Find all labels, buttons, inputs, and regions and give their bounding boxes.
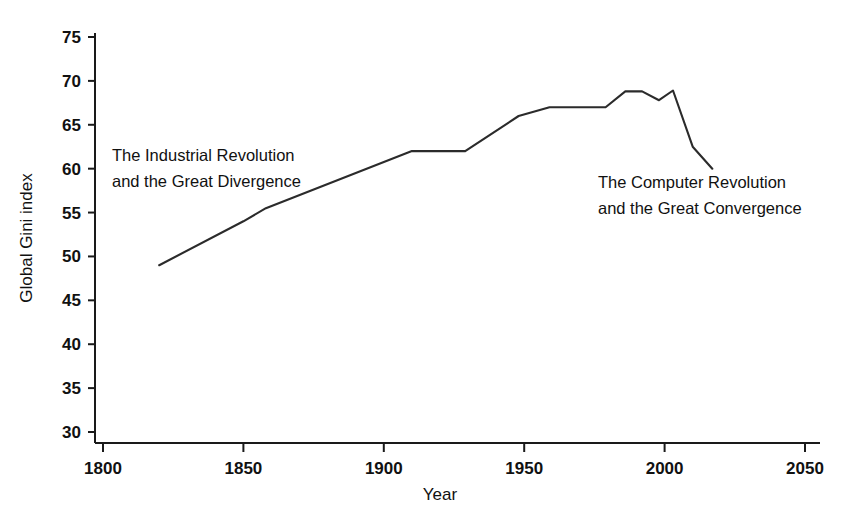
annotation-computer-line-2: and the Great Convergence — [598, 196, 802, 222]
x-tick-label-2050: 2050 — [786, 459, 824, 478]
y-axis-title: Global Gini index — [17, 173, 36, 303]
annotation-industrial-line-1: The Industrial Revolution — [112, 143, 301, 169]
annotation-computer-line-1: The Computer Revolution — [598, 170, 802, 196]
y-tick-label-40: 40 — [62, 335, 81, 354]
annotation-industrial-line-2: and the Great Divergence — [112, 169, 301, 195]
y-tick-label-45: 45 — [62, 291, 81, 310]
x-axis-ticks: 180018501900195020002050 — [84, 443, 824, 478]
y-tick-label-50: 50 — [62, 247, 81, 266]
annotation-computer-revolution: The Computer Revolution and the Great Co… — [598, 170, 802, 221]
y-tick-label-60: 60 — [62, 160, 81, 179]
y-tick-label-75: 75 — [62, 28, 81, 47]
x-tick-label-1900: 1900 — [365, 459, 403, 478]
annotation-industrial-revolution: The Industrial Revolution and the Great … — [112, 143, 301, 194]
y-tick-label-65: 65 — [62, 116, 81, 135]
chart-container: 30354045505560657075 1800185019001950200… — [0, 0, 855, 530]
x-tick-label-1800: 1800 — [84, 459, 122, 478]
axis-lines — [95, 33, 820, 443]
y-tick-label-55: 55 — [62, 204, 81, 223]
y-axis-ticks: 30354045505560657075 — [62, 28, 95, 442]
y-tick-label-30: 30 — [62, 423, 81, 442]
y-tick-label-70: 70 — [62, 72, 81, 91]
x-tick-label-1850: 1850 — [224, 459, 262, 478]
x-axis-title: Year — [423, 485, 458, 504]
y-tick-label-35: 35 — [62, 379, 81, 398]
line-chart-svg: 30354045505560657075 1800185019001950200… — [0, 0, 855, 530]
x-tick-label-2000: 2000 — [646, 459, 684, 478]
x-tick-label-1950: 1950 — [505, 459, 543, 478]
